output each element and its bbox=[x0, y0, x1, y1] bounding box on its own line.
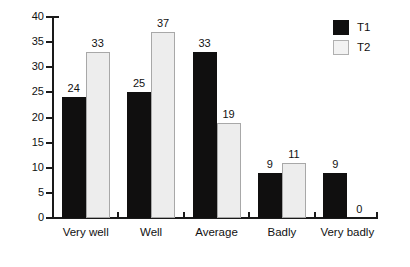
bar-value-t2-0: 33 bbox=[78, 38, 118, 49]
bar-t1-1 bbox=[127, 92, 151, 218]
y-tick-0 bbox=[46, 217, 53, 219]
bar-value-t1-2: 33 bbox=[185, 38, 225, 49]
legend: T1 T2 bbox=[333, 19, 397, 59]
y-tick-20 bbox=[46, 117, 53, 119]
bar-t1-0 bbox=[62, 97, 86, 218]
bar-t2-2 bbox=[217, 123, 241, 218]
legend-item-t2: T2 bbox=[333, 39, 397, 56]
x-category-label-4: Very badly bbox=[305, 226, 390, 239]
y-tick-5 bbox=[46, 192, 53, 194]
bar-t2-3 bbox=[282, 163, 306, 218]
plot-area: 24332537331991190 bbox=[53, 17, 380, 218]
y-tick-label-15: 15 bbox=[32, 137, 44, 148]
bar-t2-1 bbox=[151, 32, 175, 218]
bar-value-t2-2: 19 bbox=[209, 109, 249, 120]
y-tick-label-10: 10 bbox=[32, 162, 44, 173]
y-tick-25 bbox=[46, 91, 53, 93]
bar-value-t2-4: 0 bbox=[339, 204, 379, 215]
legend-label-t1: T1 bbox=[357, 21, 370, 34]
y-tick-40 bbox=[46, 16, 53, 18]
legend-item-t1: T1 bbox=[333, 19, 397, 36]
legend-swatch-t2-icon bbox=[333, 40, 349, 55]
y-tick-35 bbox=[46, 41, 53, 43]
y-tick-label-25: 25 bbox=[32, 86, 44, 97]
y-tick-label-30: 30 bbox=[32, 61, 44, 72]
legend-label-t2: T2 bbox=[357, 41, 370, 54]
bar-t1-3 bbox=[258, 173, 282, 218]
y-tick-label-40: 40 bbox=[32, 11, 44, 22]
y-tick-label-5: 5 bbox=[38, 187, 44, 198]
y-tick-30 bbox=[46, 66, 53, 68]
bar-value-t2-3: 11 bbox=[274, 149, 314, 160]
bar-chart: 0510152025303540 24332537331991190 Very … bbox=[0, 0, 410, 267]
y-tick-label-20: 20 bbox=[32, 112, 44, 123]
bar-t1-2 bbox=[193, 52, 217, 218]
legend-swatch-t1-icon bbox=[333, 20, 349, 35]
bar-value-t2-1: 37 bbox=[143, 18, 183, 29]
y-tick-label-35: 35 bbox=[32, 36, 44, 47]
y-tick-10 bbox=[46, 167, 53, 169]
bar-value-t1-4: 9 bbox=[315, 159, 355, 170]
y-tick-15 bbox=[46, 142, 53, 144]
y-tick-label-0: 0 bbox=[38, 212, 44, 223]
bar-t2-0 bbox=[86, 52, 110, 218]
